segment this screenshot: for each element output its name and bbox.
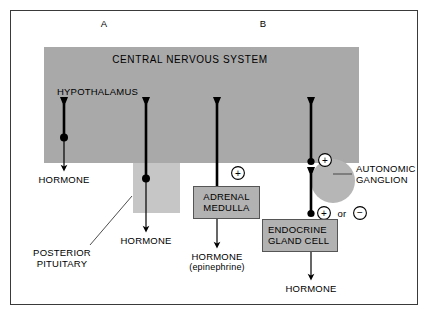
- hormone-output-3-label: HORMONE: [191, 251, 242, 263]
- endocrine-plus-sign: +: [321, 208, 327, 220]
- endocrine-gland-cell-label-line2: GLAND CELL: [268, 235, 332, 246]
- hormone-output-2-label: HORMONE: [120, 235, 171, 247]
- endocrine-gland-cell-box[interactable]: ENDOCRINE GLAND CELL: [262, 219, 338, 252]
- autonomic-ganglion-label-line2: GANGLION: [356, 174, 408, 186]
- hypothalamus-label: HYPOTHALAMUS: [57, 86, 138, 98]
- ganglion-plus-sign: +: [322, 155, 328, 167]
- adrenal-plus-sign: +: [235, 168, 241, 180]
- posterior-pituitary-label-line2: PITUITARY: [37, 258, 88, 270]
- posterior-pituitary-region: [133, 163, 180, 213]
- panel-label-b: B: [260, 18, 267, 30]
- adrenal-medulla-label-line2: MEDULLA: [199, 202, 254, 213]
- autonomic-ganglion-label-line1: AUTONOMIC: [356, 163, 416, 175]
- figure-container: A B CENTRAL NERVOUS SYSTEM HYPOTHALAMUS …: [0, 0, 430, 317]
- endocrine-minus-sign: −: [357, 207, 363, 219]
- hormone-output-4-label: HORMONE: [285, 283, 336, 295]
- central-nervous-system-title: CENTRAL NERVOUS SYSTEM: [112, 54, 267, 66]
- endocrine-or-text: or: [338, 208, 347, 220]
- posterior-pituitary-label-line1: POSTERIOR: [33, 247, 91, 259]
- hormone-output-1-label: HORMONE: [38, 174, 89, 186]
- endocrine-gland-cell-label-line1: ENDOCRINE: [268, 224, 332, 235]
- adrenal-medulla-label-line1: ADRENAL: [199, 191, 254, 202]
- panel-label-a: A: [101, 18, 108, 30]
- hormone-output-3-sublabel: (epinephrine): [189, 262, 245, 274]
- adrenal-medulla-box[interactable]: ADRENAL MEDULLA: [193, 186, 260, 219]
- autonomic-ganglion-circle: [311, 159, 355, 203]
